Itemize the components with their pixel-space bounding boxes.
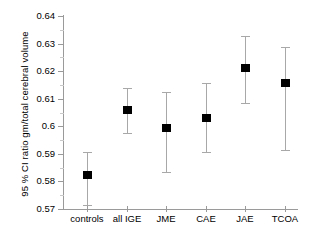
y-axis-tick	[58, 44, 64, 45]
y-axis-tick-label: 0.6	[5, 121, 55, 131]
error-bar-cap-lower	[202, 152, 211, 153]
y-axis-minor-tick	[60, 168, 64, 169]
x-axis-tick	[245, 206, 246, 212]
y-axis-tick-label: 0.57	[5, 204, 55, 214]
data-point-marker	[123, 106, 132, 114]
y-axis-tick-label: 0.64	[5, 11, 55, 21]
error-bar-cap-upper	[281, 47, 290, 48]
y-axis-tick	[58, 209, 64, 210]
data-point-marker	[162, 124, 171, 132]
y-axis-minor-tick	[60, 195, 64, 196]
data-point-marker	[202, 114, 211, 122]
plot-area: 0.640.630.620.610.60.590.580.57controlsa…	[0, 0, 313, 228]
y-axis-minor-tick	[60, 113, 64, 114]
error-bar-cap-lower	[241, 103, 250, 104]
x-axis-tick	[87, 206, 88, 212]
x-axis-tick-label: TCOA	[255, 213, 313, 224]
data-point-marker	[281, 79, 290, 87]
x-axis-line	[63, 209, 298, 210]
error-bar-cap-upper	[202, 83, 211, 84]
chart-figure: 95 % CI ratio gm/total cerebral volume 0…	[0, 0, 313, 228]
y-axis-tick	[58, 99, 64, 100]
y-axis-minor-tick	[60, 30, 64, 31]
y-axis-tick-label: 0.61	[5, 94, 55, 104]
y-axis-tick	[58, 126, 64, 127]
data-point-marker	[83, 171, 92, 179]
error-bar-line	[285, 47, 286, 150]
x-axis-tick	[285, 206, 286, 212]
y-axis-tick-label: 0.59	[5, 149, 55, 159]
y-axis-minor-tick	[60, 140, 64, 141]
error-bar-cap-lower	[83, 205, 92, 206]
y-axis-tick	[58, 181, 64, 182]
y-axis-minor-tick	[60, 85, 64, 86]
y-axis-tick-label: 0.63	[5, 39, 55, 49]
x-axis-tick	[166, 206, 167, 212]
x-axis-tick	[127, 206, 128, 212]
error-bar-line	[166, 92, 167, 172]
error-bar-cap-upper	[123, 88, 132, 89]
x-axis-tick	[206, 206, 207, 212]
y-axis-minor-tick	[60, 57, 64, 58]
error-bar-cap-upper	[241, 36, 250, 37]
y-axis-tick-label: 0.62	[5, 66, 55, 76]
data-point-marker	[241, 64, 250, 72]
error-bar-cap-upper	[162, 92, 171, 93]
y-axis-tick-label: 0.58	[5, 176, 55, 186]
y-axis-tick	[58, 16, 64, 17]
error-bar-cap-lower	[162, 172, 171, 173]
y-axis-tick	[58, 71, 64, 72]
error-bar-cap-upper	[83, 152, 92, 153]
error-bar-cap-lower	[123, 133, 132, 134]
y-axis-tick	[58, 154, 64, 155]
error-bar-cap-lower	[281, 150, 290, 151]
